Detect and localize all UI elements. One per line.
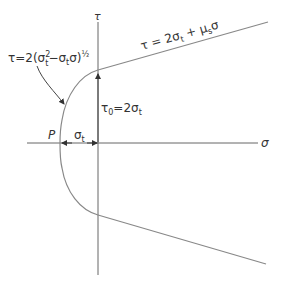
tau-axis-label: τ	[94, 10, 101, 23]
sigma-t-label: σt	[74, 128, 85, 144]
sigma-axis-label: σ	[261, 136, 269, 150]
failure-envelope-diagram: τ σ τ=2(σ2t−σtσ)½ τ = 2σt + μsσ τ0=2σt P…	[0, 0, 282, 283]
diagram-canvas: τ σ τ=2(σ2t−σtσ)½ τ = 2σt + μsσ τ0=2σt P…	[0, 0, 282, 283]
callout-arrow	[37, 66, 64, 104]
line-equation: τ = 2σt + μsσ	[139, 17, 221, 54]
lower-envelope-line	[98, 215, 266, 264]
curve-equation: τ=2(σ2t−σtσ)½	[8, 50, 90, 68]
point-p-label: P	[48, 128, 56, 142]
intercept-label: τ0=2σt	[101, 101, 142, 117]
